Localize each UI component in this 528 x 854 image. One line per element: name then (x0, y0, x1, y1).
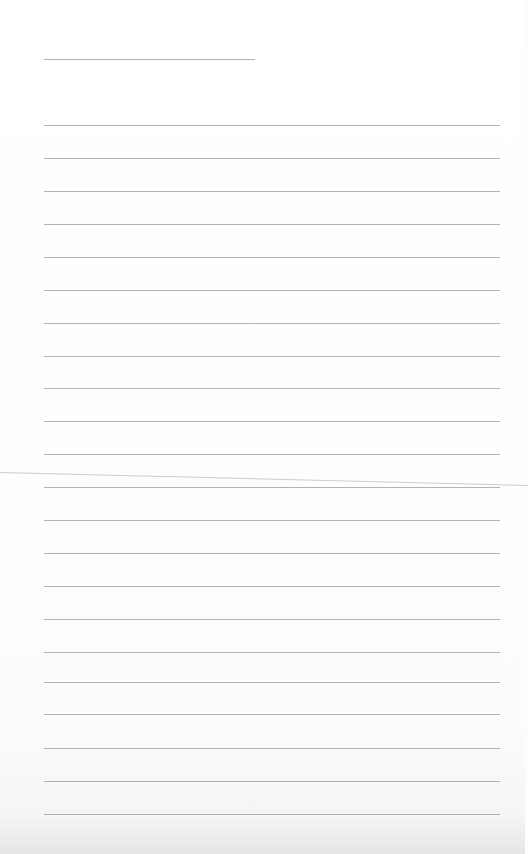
fold-crease (0, 472, 528, 486)
ruled-line (44, 652, 500, 653)
ruled-line (44, 158, 500, 159)
ruled-line (44, 421, 500, 422)
header-line (44, 59, 255, 60)
ruled-line (44, 714, 500, 715)
ruled-line (44, 553, 500, 554)
ruled-line (44, 356, 500, 357)
ruled-line (44, 619, 500, 620)
ruled-line (44, 586, 500, 587)
ruled-line (44, 388, 500, 389)
ruled-line (44, 781, 500, 782)
ruled-line (44, 323, 500, 324)
ruled-line (44, 290, 500, 291)
ruled-line (44, 454, 500, 455)
ruled-line (44, 191, 500, 192)
ruled-line (44, 487, 500, 488)
bottom-shadow (0, 814, 525, 854)
ruled-line (44, 257, 500, 258)
ruled-line (44, 520, 500, 521)
ruled-line (44, 682, 500, 683)
ruled-line (44, 224, 500, 225)
ruled-line (44, 748, 500, 749)
ruled-line (44, 125, 500, 126)
